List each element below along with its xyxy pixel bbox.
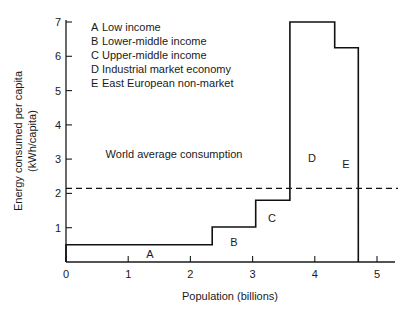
y-tick-label-3: 3 [55,153,61,165]
legend-key-c: C [91,49,99,61]
x-tick-label-5: 5 [374,268,380,280]
legend-key-d: D [91,63,99,75]
y-tick-label-4: 4 [55,119,61,131]
legend-label-a: Low income [102,21,161,33]
y-axis-title-line2: (kWh/capita) [26,110,38,172]
y-tick-label-2: 2 [55,187,61,199]
y-axis-title-line1: Energy consumed per capita [12,70,24,211]
legend-label-c: Upper-middle income [102,49,207,61]
y-tick-label-7: 7 [55,16,61,28]
legend-key-b: B [91,35,98,47]
y-tick-label-1: 1 [55,222,61,234]
bar-label-b: B [230,236,237,248]
x-tick-label-0: 0 [63,268,69,280]
bar-label-e: E [342,158,349,170]
x-tick-label-3: 3 [250,268,256,280]
chart-figure: 1 2 3 4 5 6 7 0 1 2 3 4 5 [0,0,414,311]
legend-label-e: East European non-market [102,77,233,89]
x-axis-title: Population (billions) [182,290,278,302]
x-tick-label-2: 2 [187,268,193,280]
energy-population-bar-chart: 1 2 3 4 5 6 7 0 1 2 3 4 5 [0,0,414,311]
legend-key-a: A [91,21,99,33]
x-tick-label-1: 1 [125,268,131,280]
legend-label-d: Industrial market economy [102,63,231,75]
x-tick-label-4: 4 [312,268,318,280]
y-tick-label-6: 6 [55,50,61,62]
y-tick-label-5: 5 [55,85,61,97]
bar-label-a: A [146,248,154,260]
bar-label-c: C [268,212,276,224]
bar-label-d: D [308,152,316,164]
legend-key-e: E [91,77,98,89]
world-average-label: World average consumption [106,148,243,160]
legend-label-b: Lower-middle income [102,35,207,47]
